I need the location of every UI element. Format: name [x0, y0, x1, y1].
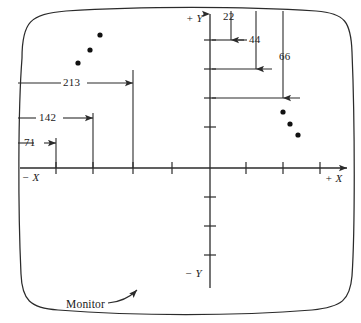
- y-negative-axis-label: − Y: [185, 268, 202, 279]
- monitor-callout-leader: [108, 290, 137, 303]
- dimension-label-71: 71: [24, 137, 35, 148]
- monitor-callout-label: Monitor: [66, 299, 105, 311]
- y-axis: [204, 14, 216, 288]
- x-negative-axis-label: − X: [22, 172, 40, 183]
- vertical-dimension-arrows: [231, 11, 283, 98]
- data-dots-right: [280, 109, 300, 137]
- y-positive-axis-label: + Y: [186, 13, 203, 24]
- dimension-label-44: 44: [249, 34, 260, 45]
- dimension-label-22: 22: [223, 11, 234, 22]
- x-positive-axis-label: + X: [325, 173, 343, 184]
- dimension-label-66: 66: [279, 51, 290, 62]
- dimension-label-213: 213: [63, 77, 80, 88]
- x-axis: [20, 162, 347, 174]
- dimension-label-142: 142: [39, 112, 56, 123]
- horizontal-dimension-arrows: [18, 83, 133, 143]
- monitor-coordinate-diagram: − X + X + Y − Y 71 142 213 22 44 66 Moni…: [0, 0, 361, 323]
- diagram-canvas: [0, 0, 361, 323]
- data-dots-left: [75, 32, 102, 65]
